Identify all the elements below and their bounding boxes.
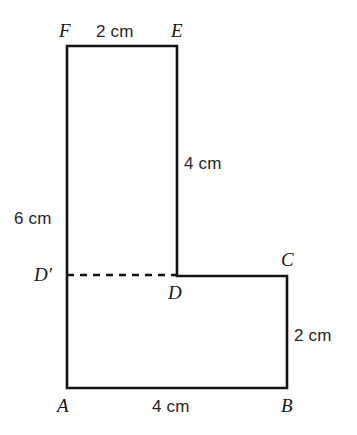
vertex-label-D-prime: D′ — [34, 265, 52, 284]
vertex-label-B: B — [281, 396, 293, 415]
measure-label-bottom-ab: 4 cm — [152, 398, 190, 415]
l-shape-outline — [67, 46, 287, 388]
vertex-label-F: F — [59, 21, 71, 40]
vertex-label-A: A — [57, 396, 69, 415]
measure-label-right-cb: 2 cm — [294, 327, 332, 344]
vertex-label-E: E — [171, 21, 183, 40]
vertex-label-C: C — [281, 250, 294, 269]
figure-canvas — [0, 0, 357, 435]
geometry-figure: F E D C B A D′ 2 cm 4 cm 6 cm 2 cm 4 cm — [0, 0, 357, 435]
measure-label-left-fdprime: 6 cm — [14, 210, 52, 227]
measure-label-top-fe: 2 cm — [96, 23, 134, 40]
measure-label-right-ed: 4 cm — [184, 155, 222, 172]
vertex-label-D: D — [168, 283, 182, 302]
